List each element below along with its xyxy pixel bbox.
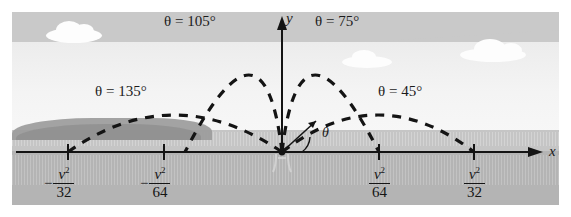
tick-label-denominator: 32 — [464, 184, 485, 200]
tick-label-numerator: v2 — [371, 166, 388, 183]
trajectory-105 — [185, 75, 282, 152]
tick-label-neg-v2-64: − v2 64 — [140, 166, 170, 200]
label-theta-marker: θ — [322, 126, 329, 140]
label-theta-75: θ = 75° — [315, 14, 359, 29]
axes-and-trajectories — [0, 0, 571, 217]
tick-label-v2-32: v2 32 — [463, 166, 485, 200]
angle-indicator — [282, 121, 316, 152]
trajectory-135 — [68, 115, 282, 152]
tick-label-denominator: 64 — [149, 184, 170, 200]
label-theta-105: θ = 105° — [164, 14, 216, 29]
tick-label-sign: − — [140, 175, 148, 192]
projectile-trajectory-figure: θ = 135° θ = 105° θ = 75° θ = 45° y x θ … — [0, 0, 571, 217]
label-theta-45: θ = 45° — [378, 84, 422, 99]
launcher-figure — [273, 154, 291, 172]
tick-label-numerator: v2 — [151, 166, 168, 183]
label-x-axis: x — [549, 144, 556, 159]
label-theta-135: θ = 135° — [95, 84, 147, 99]
tick-label-denominator: 64 — [369, 184, 390, 200]
tick-label-numerator: v2 — [55, 166, 72, 183]
tick-label-neg-v2-32: − v2 32 — [44, 166, 74, 200]
tick-label-numerator: v2 — [466, 166, 483, 183]
label-y-axis: y — [286, 11, 293, 26]
tick-label-denominator: 32 — [53, 184, 74, 200]
tick-label-sign: − — [44, 175, 52, 192]
tick-label-v2-64: v2 64 — [368, 166, 390, 200]
